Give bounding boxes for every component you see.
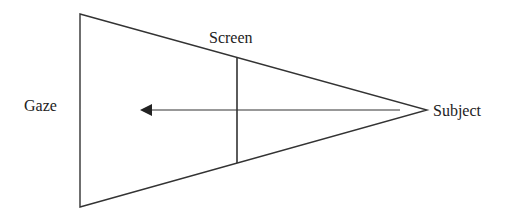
subject-label: Subject bbox=[433, 103, 481, 119]
screen-label: Screen bbox=[209, 30, 253, 46]
gaze-label: Gaze bbox=[24, 98, 57, 114]
gaze-arrowhead-icon bbox=[140, 104, 152, 116]
